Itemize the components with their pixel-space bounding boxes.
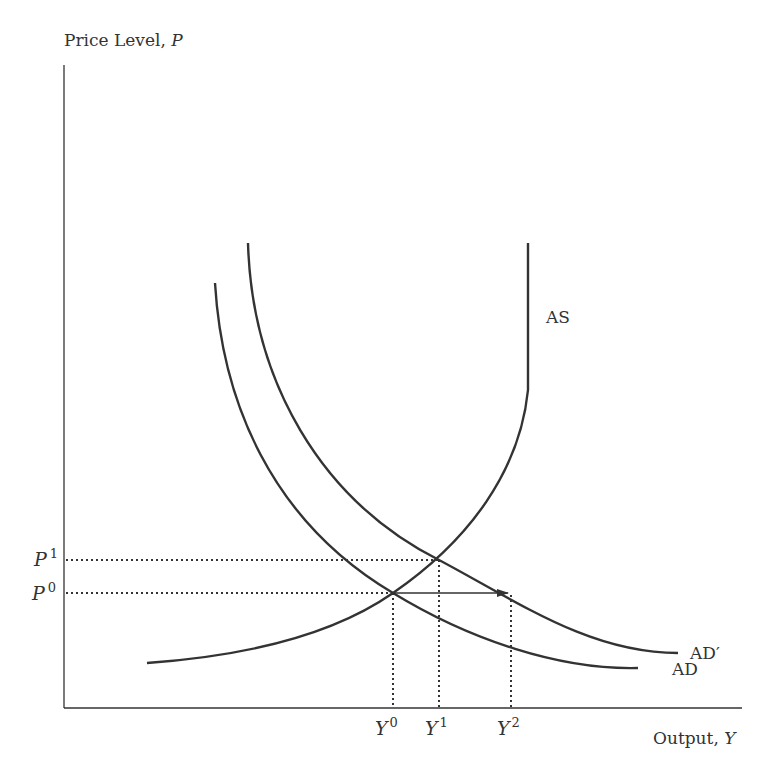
aggregate-demand-supply-diagram: Price Level, P Output, Y AS AD′ AD P1 P0… [0, 0, 778, 771]
ad-curve [215, 283, 638, 668]
as-label: AS [545, 307, 570, 327]
ad-label: AD [671, 659, 698, 679]
as-curve [147, 243, 528, 663]
output-tick-y0: Y0 [375, 715, 398, 739]
price-tick-p0: P0 [31, 580, 56, 604]
output-tick-y2: Y2 [497, 715, 520, 739]
price-tick-p1: P1 [33, 546, 58, 570]
output-tick-y1: Y1 [425, 715, 448, 739]
y-axis-title: Price Level, P [64, 30, 183, 50]
ad-prime-curve [248, 243, 678, 653]
x-axis-title: Output, Y [653, 728, 737, 748]
